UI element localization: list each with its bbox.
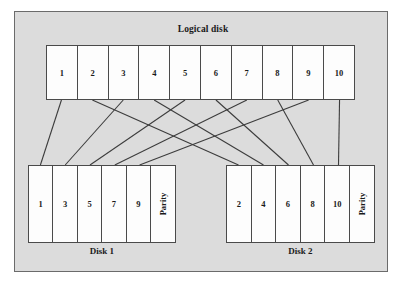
logical-block-4: 4 — [139, 46, 170, 99]
disk2-block-label: 10 — [333, 199, 342, 209]
disk2-row: 246810Parity — [226, 165, 375, 243]
logical-block-2: 2 — [78, 46, 109, 99]
logical-block-7: 7 — [232, 46, 263, 99]
logical-block-label: 6 — [214, 68, 218, 78]
disk2-block-label: 4 — [261, 199, 265, 209]
logical-block-1: 1 — [47, 46, 78, 99]
disk1-block-label: 7 — [112, 199, 116, 209]
disk1-block-7: 7 — [102, 166, 126, 242]
disk1-block-5: 5 — [78, 166, 102, 242]
disk1-block-parity: Parity — [151, 166, 175, 242]
disk1-block-label: Parity — [158, 193, 168, 216]
logical-block-label: 9 — [306, 68, 310, 78]
logical-block-label: 5 — [183, 68, 187, 78]
disk1-block-3: 3 — [53, 166, 77, 242]
disk2-block-label: 6 — [286, 199, 290, 209]
logical-block-label: 10 — [335, 68, 344, 78]
logical-block-9: 9 — [293, 46, 324, 99]
logical-block-label: 3 — [121, 68, 125, 78]
logical-disk-title: Logical disk — [0, 24, 406, 34]
logical-block-label: 1 — [60, 68, 64, 78]
disk1-block-label: 3 — [63, 199, 67, 209]
disk2-caption: Disk 2 — [226, 246, 375, 256]
logical-block-5: 5 — [170, 46, 201, 99]
disk2-block-label: Parity — [357, 193, 367, 216]
disk1-row: 13579Parity — [28, 165, 176, 243]
disk1-block-9: 9 — [127, 166, 151, 242]
disk2-block-10: 10 — [325, 166, 350, 242]
logical-block-label: 4 — [152, 68, 156, 78]
logical-block-label: 7 — [245, 68, 249, 78]
disk1-block-1: 1 — [29, 166, 53, 242]
disk2-block-8: 8 — [301, 166, 326, 242]
disk2-block-label: 2 — [237, 199, 241, 209]
disk2-block-4: 4 — [252, 166, 277, 242]
logical-block-3: 3 — [109, 46, 140, 99]
disk1-block-label: 5 — [87, 199, 91, 209]
disk2-block-2: 2 — [227, 166, 252, 242]
logical-block-label: 8 — [275, 68, 279, 78]
disk1-caption: Disk 1 — [28, 246, 176, 256]
logical-block-8: 8 — [263, 46, 294, 99]
disk2-block-6: 6 — [276, 166, 301, 242]
logical-block-10: 10 — [324, 46, 354, 99]
logical-block-label: 2 — [91, 68, 95, 78]
disk1-block-label: 9 — [136, 199, 140, 209]
disk2-block-label: 8 — [310, 199, 314, 209]
disk1-block-label: 1 — [39, 199, 43, 209]
raid-striping-figure: Logical disk 12345678910 13579Parity Dis… — [0, 0, 406, 290]
logical-block-6: 6 — [201, 46, 232, 99]
logical-disk-row: 12345678910 — [46, 45, 355, 100]
disk2-block-parity: Parity — [350, 166, 374, 242]
